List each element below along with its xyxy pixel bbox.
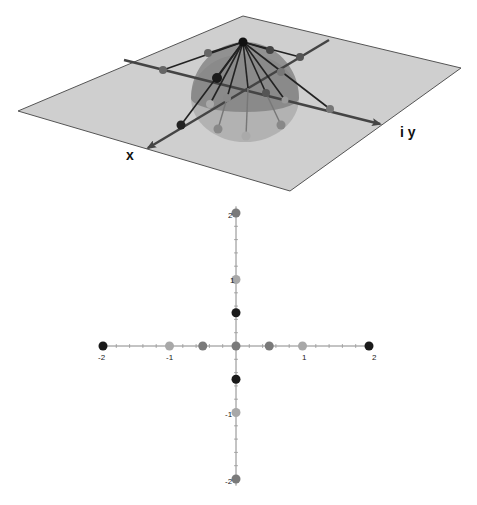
data-point <box>232 308 241 317</box>
data-point <box>232 375 241 384</box>
x-tick-label: -1 <box>166 353 174 362</box>
y-tick-label: 2 <box>228 211 233 220</box>
y-tick-label: 1 <box>230 276 235 285</box>
data-point <box>365 342 374 351</box>
complex-plane-2d-plot: -2 -1 1 2 2 1 -1 -2 <box>0 200 477 505</box>
data-point <box>198 342 207 351</box>
x-tick-label: 2 <box>372 353 377 362</box>
y-tick-label: -2 <box>225 477 233 486</box>
data-point <box>265 342 274 351</box>
y-tick-label: -1 <box>225 410 233 419</box>
data-point <box>232 342 241 351</box>
data-point <box>232 408 241 417</box>
x-tick-label: -2 <box>98 353 106 362</box>
x-tick-label: 1 <box>302 353 307 362</box>
data-point <box>232 475 241 484</box>
data-point <box>298 342 307 351</box>
data-point <box>99 342 108 351</box>
data-point <box>165 342 174 351</box>
x-axis-label: x <box>126 147 134 163</box>
stereographic-projection-3d: x i y <box>0 0 477 200</box>
data-point <box>232 209 241 218</box>
y-axis-label: i y <box>400 124 416 140</box>
